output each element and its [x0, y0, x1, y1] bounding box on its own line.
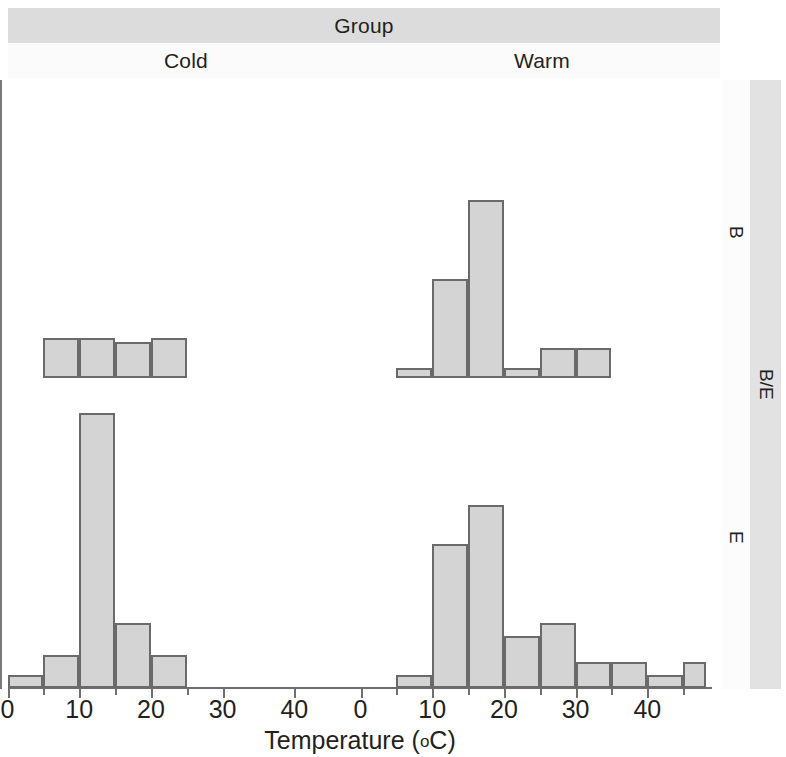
- strip-column-warm-label: Warm: [514, 49, 570, 73]
- bar-warm-b-25: [540, 348, 576, 378]
- bar-warm-b-5: [396, 368, 432, 378]
- bar-warm-b-20: [504, 368, 540, 378]
- degree-icon: o: [420, 732, 429, 751]
- cold-minor-tick-15: [115, 689, 117, 695]
- bar-cold-b-10: [79, 338, 115, 378]
- cold-ticklabel-40: 40: [264, 697, 324, 722]
- cold-ticklabel-30: 30: [193, 697, 253, 722]
- bar-warm-e-45: [683, 662, 706, 688]
- warm-minor-tick-25: [540, 689, 542, 695]
- warm-minor-tick-35: [611, 689, 613, 695]
- bar-cold-b-5: [43, 338, 79, 378]
- bar-cold-b-15: [115, 342, 151, 378]
- warm-minor-tick-5: [396, 689, 398, 695]
- strip-group-header: Group: [8, 8, 720, 43]
- warm-ticklabel-10: 10: [402, 697, 462, 722]
- strip-column-cold: Cold: [8, 44, 364, 78]
- strip-row-outer: B/E: [750, 80, 781, 689]
- bar-warm-e-25: [540, 623, 576, 689]
- strip-column-warm: Warm: [364, 44, 720, 78]
- bar-warm-e-15: [468, 505, 504, 688]
- bar-cold-e-0: [8, 675, 44, 688]
- figure-canvas: Group Cold Warm B E B/E 0102030400102030…: [0, 0, 786, 757]
- cold-ticklabel-20: 20: [121, 697, 181, 722]
- x-axis-title-tail: C): [429, 726, 455, 754]
- bar-warm-e-10: [432, 544, 468, 688]
- strip-group-label: Group: [334, 14, 393, 38]
- bar-warm-b-10: [432, 279, 468, 378]
- y-axis-line: [0, 80, 2, 689]
- strip-row-inner: B E: [722, 80, 750, 689]
- cold-ticklabel-10: 10: [49, 697, 109, 722]
- strip-row-label-b: B: [722, 80, 750, 385]
- strip-row-label-e: E: [722, 385, 750, 689]
- bar-warm-b-15: [468, 200, 504, 378]
- bar-cold-e-10: [79, 413, 115, 688]
- bar-cold-e-20: [151, 655, 187, 688]
- bar-warm-e-5: [396, 675, 432, 688]
- bar-cold-e-5: [43, 655, 79, 688]
- warm-minor-tick-15: [468, 689, 470, 695]
- bar-cold-e-15: [115, 623, 151, 689]
- cold-ticklabel-0: 0: [0, 697, 38, 722]
- warm-ticklabel-0: 0: [331, 697, 391, 722]
- bar-warm-e-30: [576, 662, 612, 688]
- cold-minor-tick-5: [43, 689, 45, 695]
- warm-ticklabel-20: 20: [474, 697, 534, 722]
- warm-ticklabel-40: 40: [617, 697, 677, 722]
- x-axis-title: Temperature (oC): [0, 726, 720, 755]
- warm-ticklabel-30: 30: [546, 697, 606, 722]
- bar-warm-e-40: [647, 675, 683, 688]
- x-axis-title-text: Temperature (: [264, 726, 420, 754]
- strip-row-label-be: B/E: [750, 80, 781, 689]
- bar-cold-b-20: [151, 338, 187, 378]
- bar-warm-e-35: [611, 662, 647, 688]
- bar-warm-b-30: [576, 348, 612, 378]
- warm-minor-tick-45: [683, 689, 685, 695]
- cold-minor-tick-25: [187, 689, 189, 695]
- strip-column-cold-label: Cold: [164, 49, 208, 73]
- bar-warm-e-20: [504, 636, 540, 688]
